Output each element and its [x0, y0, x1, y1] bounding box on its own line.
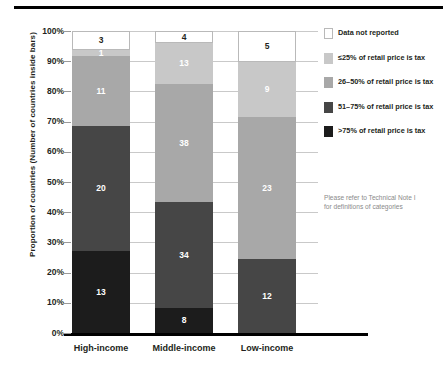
y-tick-label: 0%	[22, 328, 66, 339]
y-tick-label: 90%	[22, 56, 66, 67]
legend-item[interactable]: ≤25% of retail price is tax	[324, 53, 443, 64]
y-tick-label: 50%	[22, 177, 66, 188]
legend-item-label: Data not reported	[338, 28, 399, 37]
y-tick-text: 30%	[22, 237, 64, 248]
y-tick-label: 30%	[22, 237, 66, 248]
y-tick-text: 20%	[22, 267, 64, 278]
legend-note-line-1: Please refer to Technical Note I	[324, 194, 440, 203]
y-tick-label: 80%	[22, 86, 66, 97]
plot-area: 3111201341338348592312	[72, 31, 320, 333]
y-tick-mark	[63, 91, 71, 92]
y-tick-label: 10%	[22, 297, 66, 308]
y-axis-tick-group: 100%90%80%70%60%50%40%30%20%10%0%	[22, 31, 66, 333]
bar-segment[interactable]: 12	[238, 259, 296, 333]
bar-segment[interactable]: 23	[238, 117, 296, 259]
y-tick-text: 10%	[22, 297, 64, 308]
legend: Data not reported≤25% of retail price is…	[324, 28, 443, 151]
legend-swatch-icon	[324, 28, 333, 39]
bar-segment-value: 4	[182, 33, 187, 42]
y-tick-label: 60%	[22, 146, 66, 157]
y-tick-mark	[63, 242, 71, 243]
bar-segment[interactable]: 13	[155, 43, 213, 83]
bar-segment-value: 23	[262, 184, 271, 193]
legend-swatch-icon	[324, 102, 333, 113]
bar-segment-value: 5	[265, 42, 270, 51]
y-tick-label: 20%	[22, 267, 66, 278]
legend-item-label: 51–75% of retail price is tax	[338, 102, 433, 111]
y-tick-label: 40%	[22, 207, 66, 218]
legend-note: Please refer to Technical Note I for def…	[324, 194, 440, 211]
legend-swatch-icon	[324, 77, 333, 88]
bar-segment[interactable]: 34	[155, 202, 213, 308]
y-tick-text: 60%	[22, 146, 64, 157]
bar-segment[interactable]: 8	[155, 308, 213, 333]
top-rule-divider	[14, 6, 443, 9]
bar-segment-value: 11	[97, 87, 106, 96]
y-tick-mark	[63, 273, 71, 274]
x-axis-line	[64, 333, 368, 336]
legend-item-label: >75% of retail price is tax	[338, 126, 425, 135]
y-tick-text: 100%	[22, 26, 64, 37]
x-tick-low-income: Low-income	[207, 343, 327, 353]
bar-segment-value: 34	[179, 251, 188, 260]
bar-segment[interactable]: 9	[238, 62, 296, 118]
y-tick-mark	[63, 303, 71, 304]
bar-segment-value: 9	[265, 85, 270, 94]
legend-item[interactable]: >75% of retail price is tax	[324, 126, 443, 137]
bar-segment[interactable]: 38	[155, 84, 213, 202]
y-tick-label: 100%	[22, 26, 66, 37]
bar-segment[interactable]: 4	[155, 31, 213, 43]
y-tick-mark	[63, 61, 71, 62]
bar-segment-value: 38	[179, 139, 188, 148]
bar-segment-value: 3	[99, 36, 104, 45]
bar-high-income[interactable]: 31112013	[72, 31, 130, 333]
figure-stacked-bar-chart: Proportion of countries (Number of count…	[0, 0, 443, 378]
y-tick-mark	[63, 212, 71, 213]
y-tick-mark	[63, 333, 71, 334]
y-tick-text: 50%	[22, 177, 64, 188]
legend-note-line-2: for definitions of categories	[324, 203, 440, 212]
bar-segment-value: 13	[179, 59, 188, 68]
bar-segment-value: 20	[96, 184, 105, 193]
y-tick-text: 0%	[22, 328, 64, 339]
y-tick-text: 90%	[22, 56, 64, 67]
legend-item[interactable]: Data not reported	[324, 28, 443, 39]
bar-segment[interactable]: 13	[72, 251, 130, 333]
y-tick-mark	[63, 122, 71, 123]
y-tick-mark	[63, 182, 71, 183]
legend-item-label: ≤25% of retail price is tax	[338, 53, 425, 62]
y-tick-text: 80%	[22, 86, 64, 97]
legend-item-label: 26–50% of retail price is tax	[338, 77, 433, 86]
legend-swatch-icon	[324, 126, 333, 137]
bar-low-income[interactable]: 592312	[238, 31, 296, 333]
legend-swatch-icon	[324, 53, 333, 64]
y-tick-text: 40%	[22, 207, 64, 218]
legend-item[interactable]: 51–75% of retail price is tax	[324, 102, 443, 113]
bar-segment[interactable]: 5	[238, 31, 296, 62]
bar-segment[interactable]: 11	[72, 56, 130, 125]
y-tick-label: 70%	[22, 116, 66, 127]
y-tick-mark	[63, 31, 71, 32]
legend-item[interactable]: 26–50% of retail price is tax	[324, 77, 443, 88]
bar-middle-income[interactable]: 41338348	[155, 31, 213, 333]
bar-segment[interactable]: 20	[72, 126, 130, 252]
bar-segment-value: 8	[182, 316, 187, 325]
bar-segment-value: 12	[262, 292, 271, 301]
y-tick-text: 70%	[22, 116, 64, 127]
y-tick-mark	[63, 152, 71, 153]
bar-segment-value: 13	[96, 288, 105, 297]
